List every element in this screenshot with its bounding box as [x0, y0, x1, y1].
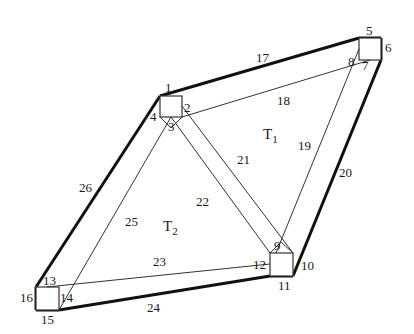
corner-boxes	[36, 38, 381, 310]
node-11: 11	[278, 278, 291, 293]
region-t2: T2	[163, 218, 178, 237]
node-6: 6	[385, 40, 392, 55]
label-26: 26	[79, 180, 93, 195]
member-19	[276, 49, 359, 253]
inner-members	[47, 49, 370, 310]
label-24: 24	[147, 300, 161, 315]
label-20: 20	[339, 165, 352, 180]
member-17	[160, 38, 359, 96]
node-1: 1	[165, 80, 172, 95]
member-26	[36, 96, 160, 287]
node-3: 3	[168, 119, 175, 134]
node-5: 5	[366, 23, 373, 38]
node-14: 14	[60, 290, 74, 305]
node-7: 7	[362, 58, 369, 73]
node-4: 4	[150, 109, 157, 124]
label-23: 23	[153, 254, 166, 269]
label-22: 22	[196, 194, 209, 209]
node-13: 13	[43, 273, 56, 288]
box-c	[270, 253, 293, 276]
region-t1: T1	[263, 126, 278, 145]
box-b	[359, 38, 381, 60]
member-25	[59, 117, 171, 310]
member-22	[171, 117, 270, 253]
node-10: 10	[301, 258, 314, 273]
member-18	[182, 60, 370, 117]
member-labels: 17 18 19 20 21 22 23 24 25 26	[79, 50, 352, 315]
label-17: 17	[256, 50, 270, 65]
node-15: 15	[41, 312, 54, 327]
label-19: 19	[298, 138, 311, 153]
member-20	[293, 60, 381, 276]
node-12: 12	[253, 257, 266, 272]
node-9: 9	[274, 238, 281, 253]
member-21	[182, 106, 293, 253]
outer-frame	[36, 38, 381, 310]
box-a	[160, 96, 182, 117]
node-8: 8	[348, 54, 355, 69]
label-25: 25	[125, 214, 138, 229]
truss-diagram: T1 T2 1 2 3 4 5 6 7 8 9 10 11 12 13 14 1…	[0, 0, 414, 334]
node-2: 2	[184, 100, 191, 115]
box-d	[36, 287, 59, 310]
label-18: 18	[277, 93, 290, 108]
member-24	[59, 276, 270, 310]
label-21: 21	[237, 152, 250, 167]
region-labels: T1 T2	[163, 126, 278, 237]
node-16: 16	[20, 290, 34, 305]
